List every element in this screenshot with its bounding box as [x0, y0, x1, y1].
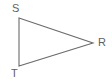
vertex-label-t: T: [11, 68, 18, 79]
geometry-diagram: S T R: [0, 0, 112, 81]
vertex-label-r: R: [98, 37, 106, 48]
triangle-outline: [19, 18, 93, 66]
vertex-label-s: S: [12, 3, 19, 14]
